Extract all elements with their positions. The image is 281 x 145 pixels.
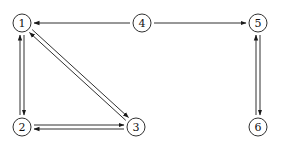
- node-2-label: 2: [12, 117, 32, 137]
- node-3-label: 3: [126, 117, 146, 137]
- graph-diagram: 123456: [0, 0, 281, 145]
- edge-1-to-3: [32, 30, 128, 118]
- edge-3-to-1: [30, 33, 126, 121]
- node-5-label: 5: [248, 13, 268, 33]
- node-6-label: 6: [248, 117, 268, 137]
- node-1-label: 1: [12, 13, 32, 33]
- node-4-label: 4: [132, 13, 152, 33]
